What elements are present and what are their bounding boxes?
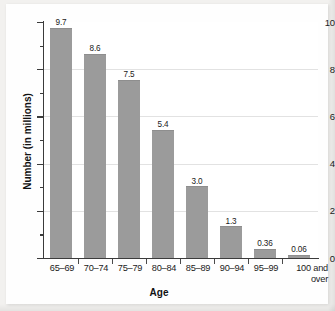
x-axis-title: Age [44,287,274,298]
bar-80-84[interactable] [152,130,174,258]
chart-screenshot: 10 8 6 4 2 0 9.7 8.6 7.5 5.4 3.0 [0,0,335,311]
bar-value-80-84: 5.4 [147,120,179,129]
x-tick-label-65-69: 65–69 [45,263,79,274]
bars-layer: 9.7 8.6 7.5 5.4 3.0 1.3 0.36 0.06 [44,22,318,258]
bar-100-and-over[interactable] [288,255,310,258]
y-tick-minor-5 [40,140,44,141]
bar-value-100-and-over: 0.06 [283,245,315,254]
y-tick-minor-7 [40,93,44,94]
x-tick-label-95-99: 95–99 [249,263,283,274]
bar-value-75-79: 7.5 [113,70,145,79]
bar-70-74[interactable] [84,54,106,258]
bar-90-94[interactable] [220,226,242,258]
bar-value-95-99: 0.36 [249,239,281,248]
y-tick-minor-9 [40,46,44,47]
bar-65-69[interactable] [50,28,72,258]
x-tick-label-80-84: 80–84 [147,263,181,274]
y-tick-2 [37,211,43,212]
y-tick-10 [37,22,43,23]
x-tick-label-75-79: 75–79 [113,263,147,274]
y-axis-title: Number (in millions) [22,62,33,222]
x-tick-label-100-and-over: 100 and over [281,263,330,285]
x-tick-label-90-94: 90–94 [215,263,249,274]
bar-75-79[interactable] [118,80,140,258]
x-tick-label-70-74: 70–74 [79,263,113,274]
y-tick-8 [37,69,43,70]
y-tick-4 [37,164,43,165]
y-tick-minor-1 [40,234,44,235]
x-tick-label-85-89: 85–89 [181,263,215,274]
bar-value-65-69: 9.7 [45,18,77,27]
page-bottom-shadow [0,304,335,311]
y-tick-minor-3 [40,187,44,188]
bar-95-99[interactable] [254,249,276,259]
y-tick-6 [37,116,43,117]
bar-value-70-74: 8.6 [79,44,111,53]
bar-value-85-89: 3.0 [181,177,213,186]
y-tick-0 [37,258,43,259]
bar-value-90-94: 1.3 [215,217,247,226]
age-distribution-bar-chart: 10 8 6 4 2 0 9.7 8.6 7.5 5.4 3.0 [0,0,335,311]
bar-85-89[interactable] [186,186,208,258]
page-right-shadow [328,0,335,311]
